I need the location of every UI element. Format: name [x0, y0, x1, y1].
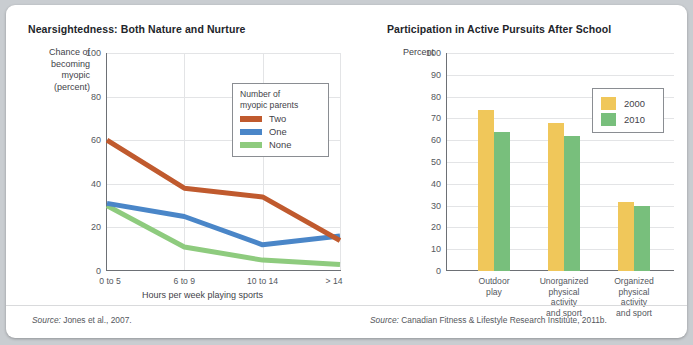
legend-label: None — [269, 139, 291, 150]
ytick-label: 100 — [426, 48, 441, 58]
xtick-label: > 14 — [326, 276, 343, 287]
legend-item-two[interactable]: Two — [240, 113, 321, 124]
legend-swatch-two — [240, 116, 262, 122]
bar-organized-2010[interactable] — [634, 206, 650, 271]
gridline-100 — [446, 53, 674, 54]
xtick-label-outdoor: Outdoor play — [478, 276, 509, 297]
xtick-label-unorganized: Unorganized physical activity and sport — [540, 276, 589, 318]
ytick-label: 60 — [91, 135, 101, 145]
source-lead: Source: — [32, 315, 61, 325]
legend-item-2010[interactable]: 2010 — [601, 113, 656, 126]
panel-nearsightedness: Nearsightedness: Both Nature and Nurture… — [6, 5, 364, 338]
ytick-label: 60 — [431, 135, 441, 145]
source-text: Jones et al., 2007. — [61, 315, 132, 325]
bar-outdoor-2010[interactable] — [494, 132, 510, 272]
ytick-label: 0 — [436, 266, 441, 276]
y-caption-line: Chance of — [24, 47, 90, 59]
source-right: Source: Canadian Fitness & Lifestyle Res… — [370, 315, 607, 325]
legend-swatch-2010 — [601, 113, 616, 126]
legend-swatch-one — [240, 129, 262, 135]
y-axis-caption-left: Chance of becoming myopic (percent) — [24, 47, 90, 93]
ytick-label: 100 — [86, 48, 101, 58]
bar-organized-2000[interactable] — [618, 202, 634, 271]
legend-years: 2000 2010 — [592, 88, 664, 133]
xtick-line: physical — [540, 287, 589, 298]
legend-swatch-2000 — [601, 97, 616, 110]
bar-unorganized-2000[interactable] — [548, 123, 564, 271]
xtick-line: Unorganized — [540, 276, 589, 287]
ytick-label: 20 — [431, 222, 441, 232]
xtick-label: 0 to 5 — [99, 276, 121, 287]
y-caption-line: becoming — [24, 59, 90, 71]
ytick-label: 80 — [431, 92, 441, 102]
xtick-line: and sport — [614, 308, 654, 319]
legend-item-2000[interactable]: 2000 — [601, 97, 656, 110]
legend-myopic-parents: Number of myopic parents Two One None — [232, 83, 329, 157]
legend-label: One — [269, 126, 287, 137]
footer-divider — [6, 305, 687, 306]
ytick-label: 0 — [96, 266, 101, 276]
y-caption-line: (percent) — [24, 82, 90, 94]
panel-title-left: Nearsightedness: Both Nature and Nurture — [28, 23, 246, 35]
xtick-label: 6 to 9 — [174, 276, 196, 287]
ytick-label: 80 — [91, 92, 101, 102]
xtick-line: physical — [614, 287, 654, 298]
xtick-label: 10 to 14 — [247, 276, 278, 287]
legend-title-line: Number of — [240, 89, 321, 100]
legend-swatch-none — [240, 142, 262, 148]
legend-label: Two — [269, 113, 286, 124]
bar-unorganized-2010[interactable] — [564, 136, 580, 271]
ytick-label: 50 — [431, 157, 441, 167]
xtick-label-organized: Organized physical activity and sport — [614, 276, 654, 318]
bar-outdoor-2000[interactable] — [478, 110, 494, 271]
ytick-label: 30 — [431, 201, 441, 211]
gridline-90 — [446, 75, 674, 76]
ytick-label: 40 — [91, 179, 101, 189]
xtick-line: Organized — [614, 276, 654, 287]
ytick-label: 90 — [431, 70, 441, 80]
xtick-line: play — [478, 287, 509, 298]
ytick-label: 70 — [431, 113, 441, 123]
legend-item-one[interactable]: One — [240, 126, 321, 137]
legend-item-none[interactable]: None — [240, 139, 321, 150]
ytick-label: 20 — [91, 222, 101, 232]
legend-label: 2010 — [624, 114, 645, 125]
legend-label: 2000 — [624, 98, 645, 109]
y-caption-line: myopic — [24, 70, 90, 82]
figure-card: Nearsightedness: Both Nature and Nurture… — [6, 5, 687, 338]
source-text: Canadian Fitness & Lifestyle Research In… — [399, 315, 607, 325]
ytick-label: 40 — [431, 179, 441, 189]
ytick-label: 10 — [431, 244, 441, 254]
xtick-line: Outdoor — [478, 276, 509, 287]
bar-plot-area: 100 90 80 70 60 50 40 30 20 10 0 Outdoor… — [446, 53, 674, 271]
source-left: Source: Jones et al., 2007. — [32, 315, 132, 325]
x-axis-title-left: Hours per week playing sports — [142, 290, 263, 300]
legend-title: Number of myopic parents — [240, 89, 321, 110]
y-axis-line-right — [446, 53, 447, 271]
source-lead: Source: — [370, 315, 399, 325]
series-line-none — [107, 206, 340, 265]
panel-title-right: Participation in Active Pursuits After S… — [387, 23, 611, 35]
legend-title-line: myopic parents — [240, 100, 321, 111]
